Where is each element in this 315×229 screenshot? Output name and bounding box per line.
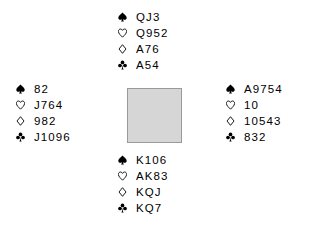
- suit-row-north-diamond: A76: [118, 41, 169, 57]
- club-icon: [118, 60, 131, 70]
- heart-icon: [226, 100, 239, 110]
- hand-south: K106 AK83 KQJ: [118, 152, 169, 216]
- card-ranks: A54: [131, 57, 160, 73]
- suit-row-east-heart: 10: [226, 97, 283, 113]
- card-ranks: A9754: [239, 81, 283, 97]
- bridge-deal-diagram: QJ3 Q952 A76: [0, 0, 315, 229]
- card-ranks: 10: [239, 97, 259, 113]
- card-ranks: 832: [239, 129, 267, 145]
- card-ranks: A76: [131, 41, 160, 57]
- card-ranks: 982: [29, 113, 57, 129]
- spade-icon: [118, 12, 131, 22]
- suit-row-west-club: J1096: [16, 129, 71, 145]
- spade-icon: [118, 155, 131, 165]
- card-ranks: 82: [29, 81, 49, 97]
- suit-row-south-diamond: KQJ: [118, 184, 169, 200]
- heart-icon: [118, 171, 131, 181]
- heart-icon: [16, 100, 29, 110]
- hand-north: QJ3 Q952 A76: [118, 9, 169, 73]
- club-icon: [118, 203, 131, 213]
- card-ranks: J764: [29, 97, 63, 113]
- card-ranks: QJ3: [131, 9, 160, 25]
- card-ranks: KQJ: [131, 184, 162, 200]
- spade-icon: [226, 84, 239, 94]
- center-square: [127, 88, 182, 143]
- card-ranks: KQ7: [131, 200, 162, 216]
- suit-row-west-heart: J764: [16, 97, 71, 113]
- card-ranks: 10543: [239, 113, 281, 129]
- suit-row-south-club: KQ7: [118, 200, 169, 216]
- hand-east: A9754 10 10543: [226, 81, 283, 145]
- diamond-icon: [118, 187, 131, 197]
- suit-row-east-diamond: 10543: [226, 113, 283, 129]
- card-ranks: J1096: [29, 129, 71, 145]
- suit-row-north-heart: Q952: [118, 25, 169, 41]
- diamond-icon: [226, 116, 239, 126]
- spade-icon: [16, 84, 29, 94]
- suit-row-east-club: 832: [226, 129, 283, 145]
- suit-row-north-spade: QJ3: [118, 9, 169, 25]
- diamond-icon: [118, 44, 131, 54]
- suit-row-west-spade: 82: [16, 81, 71, 97]
- club-icon: [16, 132, 29, 142]
- diamond-icon: [16, 116, 29, 126]
- card-ranks: K106: [131, 152, 167, 168]
- suit-row-west-diamond: 982: [16, 113, 71, 129]
- heart-icon: [118, 28, 131, 38]
- suit-row-south-spade: K106: [118, 152, 169, 168]
- card-ranks: Q952: [131, 25, 169, 41]
- hand-west: 82 J764 982: [16, 81, 71, 145]
- suit-row-south-heart: AK83: [118, 168, 169, 184]
- suit-row-east-spade: A9754: [226, 81, 283, 97]
- card-ranks: AK83: [131, 168, 169, 184]
- club-icon: [226, 132, 239, 142]
- suit-row-north-club: A54: [118, 57, 169, 73]
